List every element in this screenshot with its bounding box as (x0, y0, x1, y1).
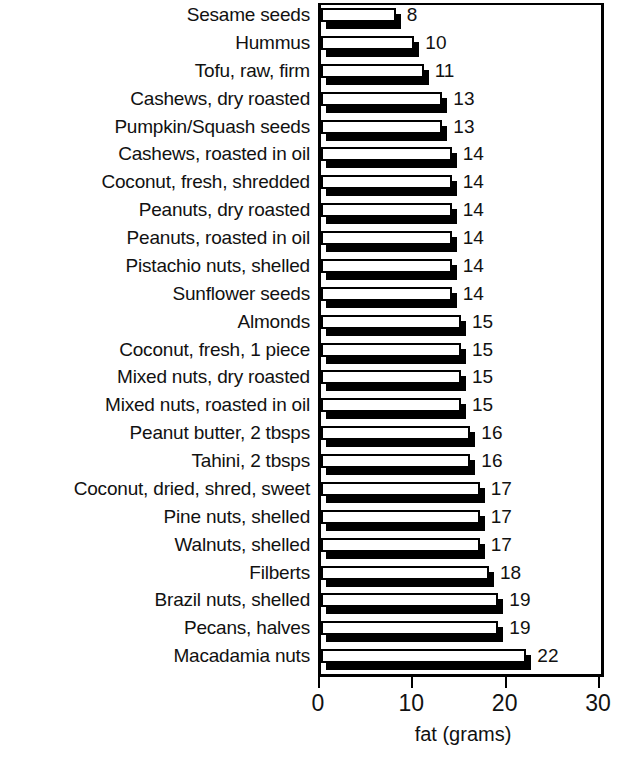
bar-row: 14 (321, 172, 601, 200)
x-axis-tick-label: 20 (480, 690, 530, 716)
category-label: Coconut, fresh, shredded (0, 172, 310, 191)
category-label: Almonds (0, 312, 310, 331)
bar[interactable] (321, 398, 461, 412)
bar-value-label: 15 (472, 312, 493, 332)
bar[interactable] (321, 426, 470, 440)
bar-value-label: 14 (463, 228, 484, 248)
bar[interactable] (321, 315, 461, 329)
bar-value-label: 16 (481, 423, 502, 443)
bar-row: 16 (321, 423, 601, 451)
category-label-column: Sesame seedsHummusTofu, raw, firmCashews… (0, 3, 310, 672)
category-label: Sunflower seeds (0, 284, 310, 303)
category-label: Peanuts, roasted in oil (0, 228, 310, 247)
category-label: Coconut, fresh, 1 piece (0, 340, 310, 359)
bar-row: 17 (321, 479, 601, 507)
x-axis-tick-label: 30 (573, 690, 619, 716)
bar-row: 16 (321, 451, 601, 479)
x-axis-tick (318, 675, 320, 688)
category-label: Cashews, roasted in oil (0, 144, 310, 163)
bar-row: 13 (321, 89, 601, 117)
category-label: Sesame seeds (0, 5, 310, 24)
bar[interactable] (321, 370, 461, 384)
bar-value-label: 14 (463, 200, 484, 220)
x-axis-tick-label: 0 (293, 690, 343, 716)
bar-row: 14 (321, 256, 601, 284)
bar[interactable] (321, 92, 442, 106)
bar[interactable] (321, 175, 452, 189)
bar-value-label: 11 (435, 61, 455, 81)
category-label: Pumpkin/Squash seeds (0, 117, 310, 136)
bar[interactable] (321, 649, 526, 663)
bar-row: 18 (321, 563, 601, 591)
bar[interactable] (321, 120, 442, 134)
bar-row: 22 (321, 646, 601, 674)
bar-row: 15 (321, 340, 601, 368)
bar-row: 8 (321, 5, 601, 33)
bar[interactable] (321, 343, 461, 357)
bar[interactable] (321, 203, 452, 217)
bar[interactable] (321, 8, 396, 22)
bar-value-label: 14 (463, 256, 484, 276)
x-axis-tick (598, 675, 600, 688)
category-label: Pistachio nuts, shelled (0, 256, 310, 275)
bar-value-label: 19 (509, 590, 530, 610)
bar[interactable] (321, 36, 414, 50)
category-label: Peanuts, dry roasted (0, 200, 310, 219)
bar-row: 17 (321, 535, 601, 563)
bar-row: 14 (321, 284, 601, 312)
bar-value-label: 15 (472, 367, 493, 387)
bar[interactable] (321, 538, 480, 552)
bar-value-label: 14 (463, 144, 484, 164)
bar-value-label: 17 (491, 507, 512, 527)
bar-value-label: 8 (407, 5, 418, 25)
category-label: Mixed nuts, dry roasted (0, 367, 310, 386)
category-label: Brazil nuts, shelled (0, 590, 310, 609)
category-label: Filberts (0, 563, 310, 582)
bar[interactable] (321, 64, 424, 78)
bar-row: 13 (321, 117, 601, 145)
bar-value-label: 14 (463, 284, 484, 304)
category-label: Pecans, halves (0, 618, 310, 637)
x-axis-tick (505, 675, 507, 688)
bar-value-label: 13 (453, 89, 474, 109)
bar-row: 11 (321, 61, 601, 89)
category-label: Tahini, 2 tbsps (0, 451, 310, 470)
bar[interactable] (321, 593, 498, 607)
x-axis: 0102030 (318, 675, 601, 764)
bar-value-label: 13 (453, 117, 474, 137)
bar-value-label: 14 (463, 172, 484, 192)
category-label: Pine nuts, shelled (0, 507, 310, 526)
bar[interactable] (321, 454, 470, 468)
bar[interactable] (321, 566, 489, 580)
bar-row: 19 (321, 618, 601, 646)
bar[interactable] (321, 287, 452, 301)
bar-value-label: 15 (472, 395, 493, 415)
bar[interactable] (321, 510, 480, 524)
bar-row: 10 (321, 33, 601, 61)
bar-row: 15 (321, 367, 601, 395)
bar-value-label: 22 (537, 646, 558, 666)
bar-value-label: 16 (481, 451, 502, 471)
bar-row: 15 (321, 395, 601, 423)
bar-row: 15 (321, 312, 601, 340)
bar[interactable] (321, 621, 498, 635)
category-label: Tofu, raw, firm (0, 61, 310, 80)
plot-area: 8101113131414141414141515151516161717171… (318, 3, 604, 677)
category-label: Cashews, dry roasted (0, 89, 310, 108)
category-label: Walnuts, shelled (0, 535, 310, 554)
bar-row: 17 (321, 507, 601, 535)
bar[interactable] (321, 482, 480, 496)
bar-value-label: 17 (491, 479, 512, 499)
bar[interactable] (321, 259, 452, 273)
bars-layer: 8101113131414141414141515151516161717171… (321, 5, 601, 674)
bar-row: 19 (321, 590, 601, 618)
bar[interactable] (321, 231, 452, 245)
category-label: Peanut butter, 2 tbsps (0, 423, 310, 442)
x-axis-tick-label: 10 (386, 690, 436, 716)
x-axis-tick (411, 675, 413, 688)
bar-row: 14 (321, 200, 601, 228)
bar-chart: Sesame seedsHummusTofu, raw, firmCashews… (0, 0, 619, 764)
category-label: Coconut, dried, shred, sweet (0, 479, 310, 498)
bar[interactable] (321, 147, 452, 161)
category-label: Macadamia nuts (0, 646, 310, 665)
